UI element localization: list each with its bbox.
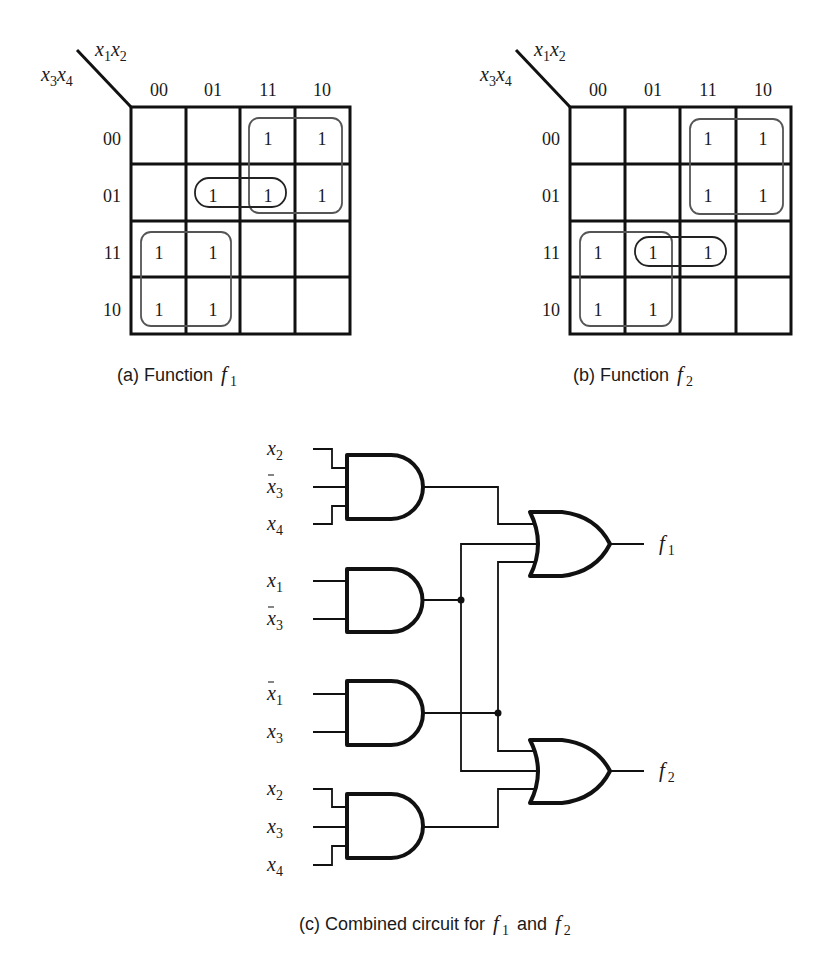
- row-label: 01: [103, 186, 121, 206]
- input-label: x1: [266, 569, 283, 595]
- or-gate-icon: [530, 512, 610, 576]
- input-label: x2: [266, 437, 283, 463]
- svg-text:1: 1: [209, 300, 218, 320]
- and-gate-icon: [347, 569, 423, 632]
- col-label: 10: [754, 80, 772, 100]
- svg-text:1: 1: [704, 186, 713, 206]
- and-gate-icon: [347, 794, 423, 858]
- caption-b: (b) Functionf2: [573, 362, 693, 389]
- row-var-label: x3x4: [479, 63, 512, 89]
- output-label-f1: f1: [659, 531, 675, 558]
- svg-text:1: 1: [209, 186, 218, 206]
- col-label: 00: [589, 80, 607, 100]
- input-label: x3: [266, 720, 283, 746]
- svg-text:1: 1: [155, 300, 164, 320]
- col-label: 10: [313, 80, 331, 100]
- row-label: 10: [542, 300, 560, 320]
- junction-dot: [495, 710, 502, 717]
- svg-text:1: 1: [594, 300, 603, 320]
- caption-c: (c) Combined circuit forf1andf2: [299, 911, 571, 938]
- kmap-f1: x1x2 x3x4 00 01 11 10 00 01 11 10 1 1 1 …: [40, 38, 350, 389]
- col-label: 00: [150, 80, 168, 100]
- input-wires: [313, 449, 347, 865]
- circuit: x2 x3 x4 x1 x3 x1 x3 x2 x3 x4: [266, 437, 675, 938]
- input-label: x3: [266, 815, 283, 841]
- col-var-label: x1x2: [533, 38, 566, 64]
- row-label: 00: [103, 129, 121, 149]
- svg-text:1: 1: [318, 129, 327, 149]
- input-label: x4: [266, 853, 283, 879]
- row-var-label: x3x4: [40, 63, 73, 89]
- svg-text:1: 1: [704, 243, 713, 263]
- col-var-label: x1x2: [94, 38, 127, 64]
- or-gate-icon: [530, 740, 610, 803]
- diagram-canvas: x1x2 x3x4 00 01 11 10 00 01 11 10 1 1 1 …: [0, 0, 835, 970]
- kmap-f2: x1x2 x3x4 00 01 11 10 00 01 11 10 1 1 1 …: [479, 38, 791, 389]
- input-label: x3: [266, 475, 283, 501]
- col-label: 11: [259, 80, 276, 100]
- input-label: x4: [266, 512, 283, 538]
- svg-text:1: 1: [759, 186, 768, 206]
- svg-text:1: 1: [649, 243, 658, 263]
- svg-text:1: 1: [209, 243, 218, 263]
- svg-text:1: 1: [594, 243, 603, 263]
- row-label: 00: [542, 129, 560, 149]
- svg-text:1: 1: [318, 186, 327, 206]
- row-label: 10: [103, 300, 121, 320]
- svg-text:1: 1: [264, 129, 273, 149]
- and-gate-icon: [347, 681, 423, 745]
- col-label: 01: [644, 80, 662, 100]
- svg-text:1: 1: [704, 129, 713, 149]
- junction-dot: [458, 597, 465, 604]
- svg-text:1: 1: [264, 186, 273, 206]
- input-label: x2: [266, 777, 283, 803]
- caption-a: (a) Functionf1: [117, 362, 237, 389]
- and-gate-icon: [347, 455, 423, 519]
- row-label: 01: [542, 186, 560, 206]
- interconnect-wires: [423, 487, 644, 827]
- svg-text:1: 1: [155, 243, 164, 263]
- input-label: x1: [266, 682, 283, 708]
- row-label: 11: [104, 243, 121, 263]
- svg-text:1: 1: [649, 300, 658, 320]
- input-labels: x2 x3 x4 x1 x3 x1 x3 x2 x3 x4: [266, 437, 283, 879]
- output-label-f2: f2: [659, 758, 675, 785]
- col-label: 11: [699, 80, 716, 100]
- col-label: 01: [204, 80, 222, 100]
- row-label: 11: [543, 243, 560, 263]
- input-label: x3: [266, 607, 283, 633]
- svg-text:1: 1: [759, 129, 768, 149]
